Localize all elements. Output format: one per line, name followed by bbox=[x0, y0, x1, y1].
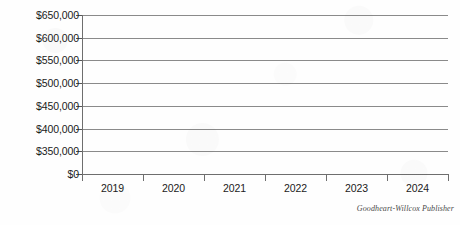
publisher-attribution: Goodheart-Willcox Publisher bbox=[357, 204, 454, 213]
x-tick-mark-3 bbox=[265, 174, 266, 181]
y-axis-line bbox=[82, 15, 83, 175]
x-axis-label-2022: 2022 bbox=[284, 182, 307, 194]
gridline-350000 bbox=[82, 151, 448, 152]
y-axis-label-450000: $450,000 bbox=[36, 100, 79, 112]
y-axis-label-400000: $400,000 bbox=[36, 123, 79, 135]
y-axis-label-550000: $550,000 bbox=[36, 54, 79, 66]
line-chart: $650,000 $600,000 $550,000 $500,000 $450… bbox=[0, 0, 460, 225]
gridline-400000 bbox=[82, 129, 448, 130]
x-tick-mark-1 bbox=[143, 174, 144, 181]
gridline-600000 bbox=[82, 38, 448, 39]
x-tick-mark-5 bbox=[387, 174, 388, 181]
x-axis-label-2019: 2019 bbox=[101, 182, 124, 194]
gridline-650000 bbox=[82, 15, 448, 16]
y-axis-label-500000: $500,000 bbox=[36, 77, 79, 89]
gridline-450000 bbox=[82, 106, 448, 107]
x-tick-mark-0 bbox=[82, 174, 83, 181]
x-tick-mark-2 bbox=[204, 174, 205, 181]
gridline-550000 bbox=[82, 60, 448, 61]
chart-screenshot: $650,000 $600,000 $550,000 $500,000 $450… bbox=[0, 0, 460, 225]
x-axis-label-2023: 2023 bbox=[345, 182, 368, 194]
gridline-500000 bbox=[82, 83, 448, 84]
x-tick-mark-4 bbox=[326, 174, 327, 181]
y-axis-label-650000: $650,000 bbox=[36, 9, 79, 21]
y-axis-label-600000: $600,000 bbox=[36, 32, 79, 44]
y-axis-label-350000: $350,000 bbox=[36, 145, 79, 157]
x-axis-label-2024: 2024 bbox=[406, 182, 429, 194]
y-axis-label-0: $0 bbox=[68, 168, 79, 180]
x-axis-label-2021: 2021 bbox=[223, 182, 246, 194]
x-tick-mark-6 bbox=[448, 174, 449, 181]
x-axis-label-2020: 2020 bbox=[162, 182, 185, 194]
